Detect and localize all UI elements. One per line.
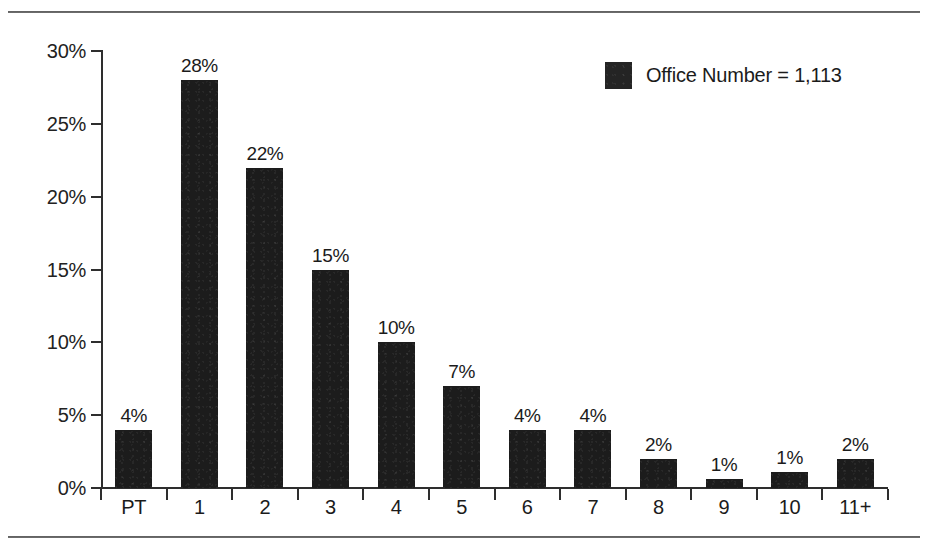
x-axis-tick bbox=[297, 489, 299, 500]
y-axis-tick-label: 10% bbox=[2, 331, 86, 354]
x-axis-tick-label: 11+ bbox=[839, 496, 871, 519]
x-axis-tick bbox=[625, 489, 627, 500]
bar bbox=[246, 168, 283, 488]
bar bbox=[181, 80, 218, 488]
y-axis-tick bbox=[91, 196, 101, 198]
y-axis-tick-label: 15% bbox=[2, 258, 86, 281]
bar-chart-figure: 0%5%10%15%20%25%30% PT1234567891011+ 4%2… bbox=[0, 0, 928, 554]
bar-value-label: 4% bbox=[120, 405, 147, 427]
x-axis-tick bbox=[821, 489, 823, 500]
bar bbox=[312, 270, 349, 489]
x-axis-tick bbox=[362, 489, 364, 500]
bar-value-label: 4% bbox=[580, 405, 607, 427]
bar-value-label: 7% bbox=[448, 361, 475, 383]
bar bbox=[706, 479, 743, 488]
x-axis-tick-label: 6 bbox=[522, 496, 533, 519]
legend-label-office-number: Office Number = 1,113 bbox=[646, 64, 842, 87]
page-rule-bottom bbox=[8, 536, 920, 538]
x-axis-tick-label: 2 bbox=[259, 496, 270, 519]
bar-value-label: 1% bbox=[711, 454, 738, 476]
bar-value-label: 1% bbox=[776, 447, 803, 469]
bar-value-label: 2% bbox=[842, 434, 869, 456]
y-axis-tick bbox=[91, 414, 101, 416]
y-axis-tick-label: 5% bbox=[2, 404, 86, 427]
x-axis-tick-label: 7 bbox=[587, 496, 598, 519]
bar-value-label: 10% bbox=[378, 317, 415, 339]
bar bbox=[509, 430, 546, 488]
x-axis-tick bbox=[231, 489, 233, 500]
x-axis-tick bbox=[559, 489, 561, 500]
bar bbox=[771, 472, 808, 488]
x-axis-tick-label: 3 bbox=[325, 496, 336, 519]
bar bbox=[443, 386, 480, 488]
chart-legend: Office Number = 1,113 bbox=[605, 62, 842, 89]
x-axis-tick-label: 1 bbox=[194, 496, 205, 519]
bar bbox=[640, 459, 677, 488]
y-axis-tick-label: 25% bbox=[2, 112, 86, 135]
x-axis-tick-label: 9 bbox=[719, 496, 730, 519]
x-axis-tick bbox=[887, 489, 889, 500]
x-axis-tick-label: 4 bbox=[391, 496, 402, 519]
y-axis-tick bbox=[91, 50, 101, 52]
bar bbox=[574, 430, 611, 488]
page-rule-top bbox=[8, 11, 920, 13]
y-axis-tick bbox=[91, 341, 101, 343]
x-axis-tick-label: 8 bbox=[653, 496, 664, 519]
y-axis-tick-label: 0% bbox=[2, 477, 86, 500]
x-axis-tick bbox=[756, 489, 758, 500]
bar-value-label: 15% bbox=[312, 245, 349, 267]
x-axis-tick-label: 5 bbox=[456, 496, 467, 519]
bar-value-label: 22% bbox=[247, 143, 284, 165]
bar-value-label: 4% bbox=[514, 405, 541, 427]
x-axis-tick bbox=[100, 489, 102, 500]
bar-value-label: 28% bbox=[181, 55, 218, 77]
bar bbox=[378, 342, 415, 488]
y-axis-tick-label: 30% bbox=[2, 40, 86, 63]
x-axis-tick-label: 10 bbox=[779, 496, 801, 519]
bar-value-label: 2% bbox=[645, 434, 672, 456]
x-axis-tick-label: PT bbox=[121, 496, 146, 519]
x-axis-tick bbox=[166, 489, 168, 500]
y-axis-line bbox=[101, 50, 103, 489]
legend-swatch-office-number bbox=[605, 62, 632, 89]
x-axis-tick bbox=[428, 489, 430, 500]
y-axis-tick bbox=[91, 269, 101, 271]
bar bbox=[837, 459, 874, 488]
bar bbox=[115, 430, 152, 488]
y-axis-tick-label: 20% bbox=[2, 185, 86, 208]
y-axis-tick bbox=[91, 123, 101, 125]
x-axis-tick bbox=[690, 489, 692, 500]
x-axis-tick bbox=[494, 489, 496, 500]
